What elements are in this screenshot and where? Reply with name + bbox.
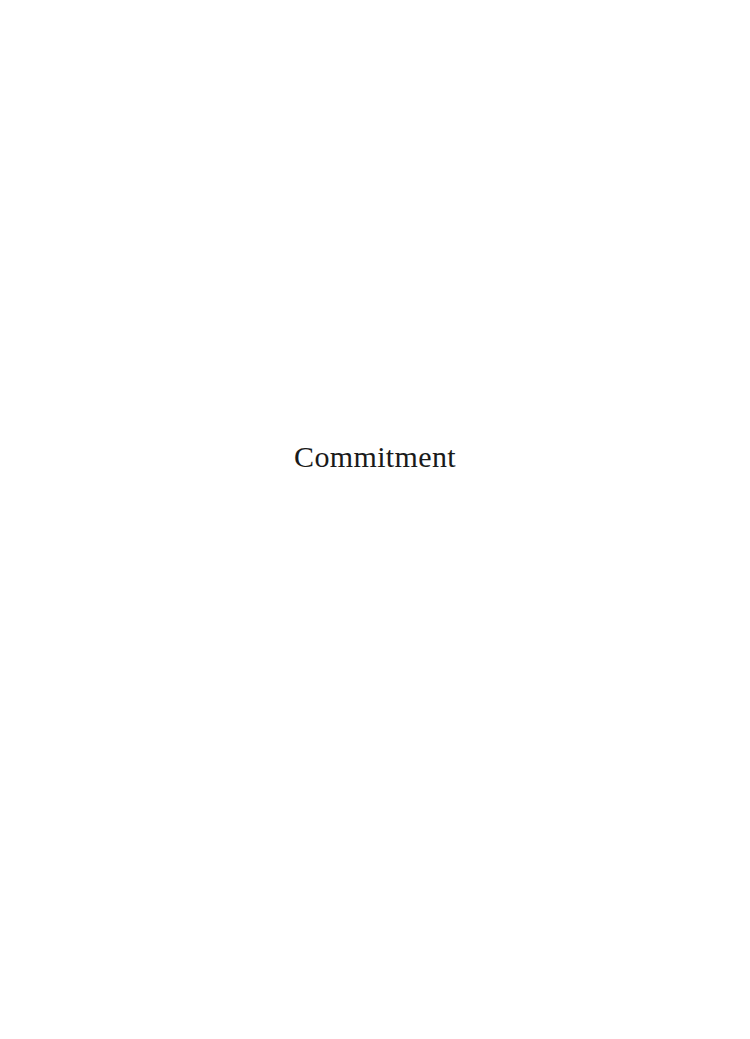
blank-upper-margin (0, 0, 750, 440)
part-title: Commitment (294, 440, 456, 474)
book-page: Commitment (0, 0, 750, 1039)
blank-lower-margin (0, 490, 750, 1039)
part-title-block: Commitment (0, 440, 750, 474)
